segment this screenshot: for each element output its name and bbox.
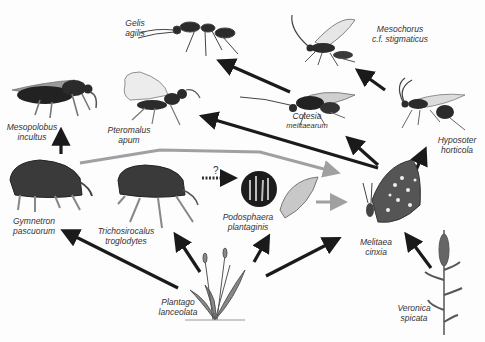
label-podosphaera: Podosphaera plantaginis xyxy=(218,212,278,232)
grey-arrow-gymnetron-to-melitaea xyxy=(80,150,335,172)
label-trichosirocalus: Trichosirocalus troglodytes xyxy=(96,226,156,246)
question-mark-label: ? xyxy=(213,165,219,176)
label-melitaea: Melitaea cinxia xyxy=(354,237,398,257)
arrow-plantago-to-melitaea xyxy=(266,240,336,276)
label-plantago: Plantago lanceolata xyxy=(155,297,201,317)
label-veronica: Veronica spicata xyxy=(392,303,436,323)
arrow-plantago-to-trichosirocalus xyxy=(177,237,200,272)
melitaea-illustration xyxy=(363,160,420,222)
gymnetron-illustration xyxy=(10,160,92,212)
arrow-melitaea-to-hyposoter xyxy=(416,152,424,170)
arrow-veronica-to-melitaea xyxy=(408,237,431,268)
arrow-cotesia-to-gelis xyxy=(222,62,290,92)
label-pteromalus: Pteromalus apum xyxy=(104,125,154,145)
trichosirocalus-illustration xyxy=(118,165,198,228)
podosphaera-illustration xyxy=(241,171,318,218)
arrow-hyposoter-to-mesochorus xyxy=(360,72,385,90)
label-mesopolobus: Mesopolobus incultus xyxy=(4,122,60,142)
diagram-graphics xyxy=(0,0,485,342)
label-hyposoter: Hyposoter horticola xyxy=(432,135,482,155)
food-web-diagram: ? Gelis agilis Mesochorus c.f. stigmatic… xyxy=(0,0,485,342)
label-gymnetron: Gymnetron pascuorum xyxy=(8,216,60,236)
hyposoter-illustration xyxy=(399,78,465,130)
label-mesochorus: Mesochorus c.f. stigmaticus xyxy=(360,24,440,44)
label-cotesia: Cotesia melitaearum xyxy=(282,111,332,131)
label-gelis-agilis: Gelis agilis xyxy=(112,18,158,38)
mesochorus-illustration xyxy=(292,15,355,66)
mesopolobus-illustration xyxy=(12,80,96,118)
pteromalus-illustration xyxy=(124,72,200,125)
arrow-plantago-to-podosphaera xyxy=(254,239,267,262)
